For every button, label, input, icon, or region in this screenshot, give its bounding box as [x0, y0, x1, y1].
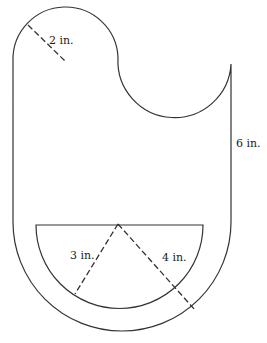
top-radius-label: 2 in.	[49, 34, 74, 47]
outer-radius-label: 4 in.	[162, 251, 187, 264]
right-height-label: 6 in.	[236, 137, 261, 150]
geometry-figure: 2 in. 6 in. 3 in. 4 in.	[0, 0, 267, 343]
inner-semicircle	[36, 225, 203, 309]
outer-outline	[13, 7, 231, 331]
outer-radius-line	[118, 224, 195, 310]
inner-radius-label: 3 in.	[70, 249, 95, 262]
